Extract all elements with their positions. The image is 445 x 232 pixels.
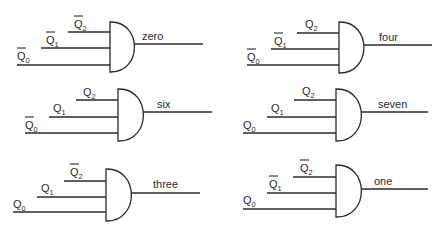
input-label-q2: Q2 xyxy=(305,18,318,33)
input-label-q1: Q1 xyxy=(53,102,66,117)
input-label-q1: Q1 xyxy=(271,102,284,117)
input-label-subscript: 1 xyxy=(50,188,54,197)
decoder-diagram: Q2Q1Q0zeroQ2Q1Q0fourQ2Q1Q0sixQ2Q1Q0seven… xyxy=(0,0,445,232)
input-label-subscript: 2 xyxy=(314,24,318,33)
input-label-not-q2: Q2 xyxy=(70,164,83,181)
input-label-subscript: 1 xyxy=(278,184,282,193)
input-label-not-q1: Q1 xyxy=(274,33,287,50)
input-label-subscript: 2 xyxy=(79,172,83,181)
output-label-one: one xyxy=(374,175,392,187)
and-gate-body xyxy=(339,22,364,73)
input-label-not-q0: Q0 xyxy=(17,48,30,65)
input-label-subscript: 1 xyxy=(280,108,284,117)
input-label-subscript: 1 xyxy=(62,108,66,117)
input-label-subscript: 0 xyxy=(34,125,38,134)
and-gate-body xyxy=(336,165,361,217)
output-label-three: three xyxy=(153,178,178,190)
and-gate-body xyxy=(106,169,131,221)
and-gate-seven: Q2Q1Q0seven xyxy=(243,85,428,141)
input-label-q2: Q2 xyxy=(302,85,315,100)
input-label-q0: Q0 xyxy=(243,194,256,209)
output-label-four: four xyxy=(379,31,398,43)
input-label-subscript: 1 xyxy=(55,40,59,49)
output-label-seven: seven xyxy=(378,98,407,110)
and-gate-six: Q2Q1Q0six xyxy=(25,86,212,141)
input-label-subscript: 0 xyxy=(26,56,30,65)
input-label-q0: Q0 xyxy=(243,119,256,134)
input-label-not-q0: Q0 xyxy=(25,117,38,134)
input-label-q1: Q1 xyxy=(41,182,54,197)
output-label-six: six xyxy=(157,98,171,110)
input-label-q2: Q2 xyxy=(83,86,96,101)
input-label-subscript: 1 xyxy=(283,41,287,50)
input-label-subscript: 0 xyxy=(22,204,26,213)
output-label-zero: zero xyxy=(142,30,163,42)
input-label-subscript: 0 xyxy=(256,57,260,66)
input-label-not-q2: Q2 xyxy=(300,160,313,177)
and-gate-body xyxy=(336,89,361,141)
input-label-not-q1: Q1 xyxy=(269,176,282,193)
and-gate-body xyxy=(118,89,143,141)
and-gate-body xyxy=(110,22,134,72)
and-gate-one: Q2Q1Q0one xyxy=(243,160,428,217)
input-label-not-q0: Q0 xyxy=(247,49,260,66)
and-gate-four: Q2Q1Q0four xyxy=(247,18,432,73)
input-label-not-q2: Q2 xyxy=(74,16,87,33)
input-label-subscript: 2 xyxy=(83,24,87,33)
and-gate-zero: Q2Q1Q0zero xyxy=(17,16,203,72)
input-label-q0: Q0 xyxy=(13,198,26,213)
input-label-subscript: 2 xyxy=(311,91,315,100)
input-label-subscript: 2 xyxy=(309,168,313,177)
input-label-not-q1: Q1 xyxy=(46,32,59,49)
input-label-subscript: 0 xyxy=(252,200,256,209)
input-label-subscript: 2 xyxy=(92,92,96,101)
and-gate-three: Q2Q1Q0three xyxy=(13,164,200,221)
input-label-subscript: 0 xyxy=(252,125,256,134)
